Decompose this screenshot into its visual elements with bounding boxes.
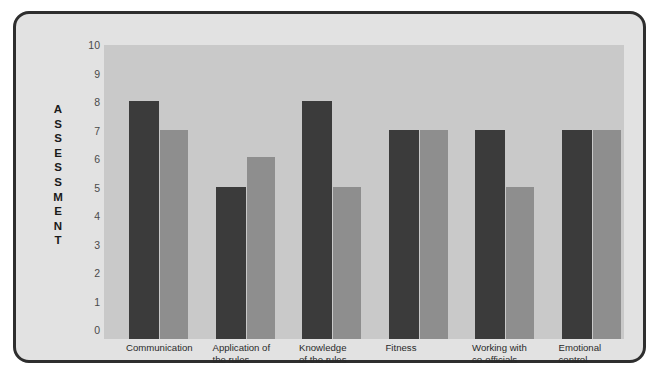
plot-area xyxy=(104,45,624,339)
bar-dark xyxy=(389,130,419,339)
y-axis-tick-label: 10 xyxy=(74,39,100,51)
y-axis-tick-label: 7 xyxy=(74,125,100,137)
x-axis-category-label: Emotionalcontrol xyxy=(559,342,602,365)
y-axis-tick-label: 3 xyxy=(74,239,100,251)
y-axis-title-letter: S xyxy=(48,131,68,146)
bar-dark xyxy=(129,101,159,339)
y-axis-tick-label: 5 xyxy=(74,182,100,194)
y-axis-tick-label: 8 xyxy=(74,96,100,108)
bar-light xyxy=(506,187,534,339)
bar-container xyxy=(104,54,624,339)
bar-group xyxy=(475,54,534,339)
y-axis-title-letter: M xyxy=(48,190,68,205)
x-axis-category-label: Fitness xyxy=(386,342,417,354)
bar-group xyxy=(216,54,275,339)
x-axis-category-line: Fitness xyxy=(386,342,417,354)
bar-light xyxy=(160,130,188,339)
bar-light xyxy=(333,187,361,339)
bar-light xyxy=(593,130,621,339)
y-axis-tick-label: 4 xyxy=(74,210,100,222)
y-axis-title: ASSESSMENT xyxy=(48,102,68,248)
x-axis-category-line: the rules xyxy=(213,354,271,366)
x-axis-category-line: Knowledge xyxy=(299,342,346,354)
bar-light xyxy=(247,157,275,339)
y-axis-title-letter: A xyxy=(48,102,68,117)
y-axis-title-letter: S xyxy=(48,160,68,175)
bar-group xyxy=(129,54,188,339)
bar-group xyxy=(562,54,621,339)
bar-dark xyxy=(562,130,592,339)
x-axis-category-line: co-officials xyxy=(472,354,527,366)
y-axis-title-letter: S xyxy=(48,117,68,132)
bar-dark xyxy=(216,187,246,339)
x-axis-category-line: of the rules xyxy=(299,354,346,366)
y-axis-title-letter: T xyxy=(48,233,68,248)
y-axis-title-letter: E xyxy=(48,204,68,219)
chart-screenshot: ASSESSMENT 109876543210 CommunicationApp… xyxy=(0,0,659,375)
x-axis-category-label: Application ofthe rules xyxy=(213,342,271,365)
x-axis-category-label: Communication xyxy=(126,342,193,354)
y-axis-ticks: 109876543210 xyxy=(74,14,100,375)
y-axis-tick-label: 0 xyxy=(74,324,100,336)
y-axis-title-letter: S xyxy=(48,175,68,190)
x-axis-categories: CommunicationApplication ofthe rulesKnow… xyxy=(104,342,624,375)
y-axis-tick-label: 2 xyxy=(74,267,100,279)
x-axis-category-line: Working with xyxy=(472,342,527,354)
bar-group xyxy=(389,54,448,339)
y-axis-title-letter: E xyxy=(48,146,68,161)
bar-dark xyxy=(475,130,505,339)
bar-dark xyxy=(302,101,332,339)
x-axis-category-label: Working withco-officials xyxy=(472,342,527,365)
bar-group xyxy=(302,54,361,339)
y-axis-tick-label: 1 xyxy=(74,296,100,308)
x-axis-category-line: Communication xyxy=(126,342,193,354)
x-axis-category-line: Emotional xyxy=(559,342,602,354)
bar-light xyxy=(420,130,448,339)
y-axis-tick-label: 9 xyxy=(74,68,100,80)
x-axis-category-label: Knowledgeof the rules xyxy=(299,342,346,365)
x-axis-category-line: control xyxy=(559,354,602,366)
chart-card: ASSESSMENT 109876543210 CommunicationApp… xyxy=(13,11,646,363)
y-axis-title-letter: N xyxy=(48,219,68,234)
y-axis-tick-label: 6 xyxy=(74,153,100,165)
x-axis-category-line: Application of xyxy=(213,342,271,354)
